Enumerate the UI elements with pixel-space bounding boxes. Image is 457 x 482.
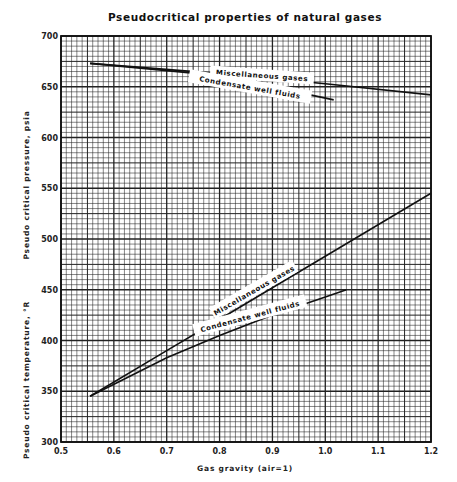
y-tick-label: 400 (41, 337, 58, 346)
x-tick-label: 1.0 (318, 447, 333, 456)
x-tick-label: 0.7 (160, 447, 174, 456)
chart-plot: 0.50.60.70.80.91.01.11.23003504004505005… (0, 0, 457, 482)
y-tick-label: 600 (41, 134, 58, 143)
x-tick-label: 1.1 (371, 447, 386, 456)
y-tick-label: 500 (41, 235, 58, 244)
x-tick-label: 0.5 (54, 447, 69, 456)
x-tick-label: 0.6 (107, 447, 122, 456)
x-tick-label: 0.8 (212, 447, 227, 456)
x-tick-label: 1.2 (424, 447, 438, 456)
y-tick-label: 700 (41, 32, 58, 41)
y-tick-label: 450 (41, 286, 58, 295)
y-tick-label: 300 (41, 438, 58, 447)
x-axis-label: Gas gravity (air=1) (197, 464, 293, 473)
y-tick-label: 550 (41, 184, 58, 193)
y-axis-label-pressure: Pseudo critical pressure, psia (22, 110, 31, 259)
x-tick-label: 0.9 (265, 447, 280, 456)
y-axis-label-temperature: Pseudo critical temperature, °R (22, 301, 31, 459)
y-tick-label: 350 (41, 387, 58, 396)
y-tick-label: 650 (41, 83, 58, 92)
